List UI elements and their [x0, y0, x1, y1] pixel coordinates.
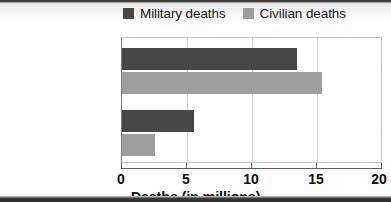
legend-swatch-civilian-icon [243, 8, 254, 19]
scan-artifact-top-band [0, 0, 391, 3]
legend-swatch-military-icon [123, 8, 134, 19]
x-tick-mark-20 [381, 163, 382, 169]
gridline-15 [317, 38, 318, 162]
x-tick-mark-5 [186, 163, 187, 169]
x-tick-label-0: 0 [117, 171, 125, 187]
bar-axis-military [122, 110, 194, 132]
chart-figure: Military deaths Civilian deaths Allied c… [0, 0, 391, 202]
bar-allied-civilian [122, 72, 322, 94]
legend-label-military: Military deaths [140, 7, 226, 20]
x-tick-mark-0 [121, 163, 122, 169]
legend-entry-civilian: Civilian deaths [243, 7, 346, 20]
scan-artifact-bottom-band [0, 196, 391, 202]
x-tick-label-15: 15 [308, 171, 324, 187]
x-tick-label-20: 20 [371, 171, 387, 187]
bar-axis-civilian [122, 134, 155, 156]
legend-label-civilian: Civilian deaths [260, 7, 346, 20]
x-tick-label-5: 5 [182, 171, 190, 187]
plot-area [121, 37, 382, 163]
x-tick-mark-10 [251, 163, 252, 169]
chart-legend: Military deaths Civilian deaths [123, 7, 346, 20]
x-tick-mark-15 [316, 163, 317, 169]
bar-allied-military [122, 48, 297, 70]
x-tick-label-10: 10 [243, 171, 259, 187]
legend-entry-military: Military deaths [123, 7, 226, 20]
